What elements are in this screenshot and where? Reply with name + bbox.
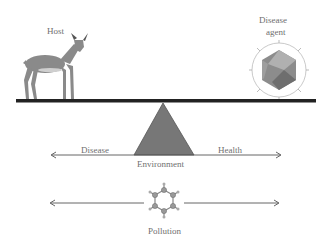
triangle-fulcrum: [134, 103, 194, 155]
benzene-molecule-icon: [149, 183, 180, 219]
disease-label: Disease: [81, 145, 109, 155]
disease-agent-label-line2: agent: [266, 27, 286, 37]
pollution-arrow: [50, 200, 279, 206]
pollution-label: Pollution: [148, 226, 181, 236]
virus-icosahedron-icon: [249, 40, 309, 100]
environment-label: Environment: [137, 159, 184, 169]
host-label: Host: [47, 26, 64, 36]
deer-icon: [23, 33, 88, 99]
disease-agent-label-line1: Disease: [259, 15, 287, 25]
health-label: Health: [218, 145, 242, 155]
balance-beam: [16, 99, 316, 103]
